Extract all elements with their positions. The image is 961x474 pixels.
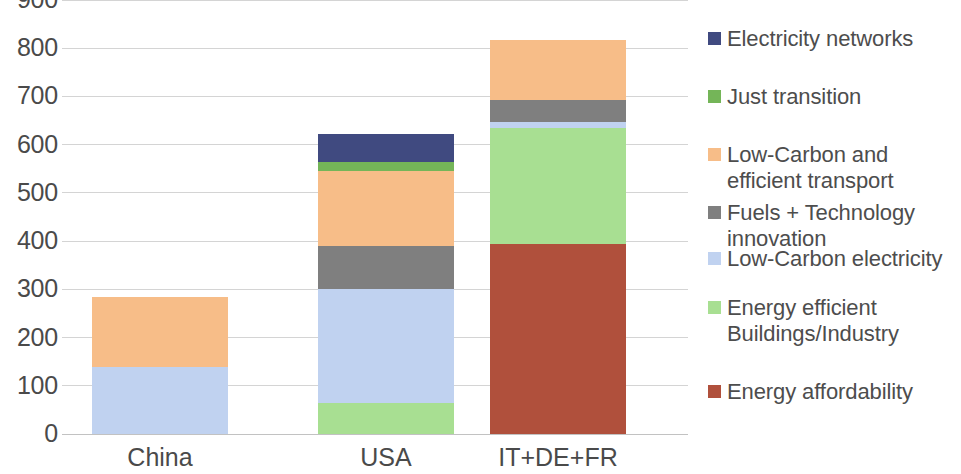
y-tick-label: 800 <box>0 35 58 60</box>
bar-segment[interactable] <box>490 128 626 244</box>
legend-swatch-icon <box>708 148 721 161</box>
y-tick-label: 100 <box>0 373 58 398</box>
plot-area <box>62 0 688 434</box>
bar-usa[interactable] <box>318 0 454 434</box>
x-tick-label: IT+DE+FR <box>490 444 626 472</box>
legend-label: Fuels + Technology innovation <box>727 200 915 251</box>
y-tick-label: 200 <box>0 325 58 350</box>
legend-label: Electricity networks <box>727 26 913 52</box>
x-tick-label: USA <box>318 444 454 472</box>
legend-item[interactable]: Electricity networks <box>708 26 913 52</box>
y-tick-label: 600 <box>0 132 58 157</box>
x-tick-label: China <box>92 444 228 472</box>
legend-item[interactable]: Just transition <box>708 84 861 110</box>
bar-segment[interactable] <box>318 403 454 434</box>
legend-swatch-icon <box>708 32 721 45</box>
legend-swatch-icon <box>708 252 721 265</box>
legend-item[interactable]: Low-Carbon and efficient transport <box>708 142 893 193</box>
legend-item[interactable]: Low-Carbon electricity <box>708 246 942 272</box>
bar-segment[interactable] <box>490 122 626 128</box>
bar-segment[interactable] <box>92 297 228 367</box>
bar-china[interactable] <box>92 0 228 434</box>
bar-segment[interactable] <box>92 367 228 435</box>
legend-item[interactable]: Energy efficient Buildings/Industry <box>708 295 899 346</box>
bar-segment[interactable] <box>490 40 626 100</box>
bar-segment[interactable] <box>318 171 454 246</box>
legend-label: Energy efficient Buildings/Industry <box>727 295 899 346</box>
legend-label: Energy affordability <box>727 379 913 405</box>
bar-segment[interactable] <box>490 244 626 434</box>
y-axis: 0100200300400500600700800900 <box>0 0 58 474</box>
legend-item[interactable]: Energy affordability <box>708 379 913 405</box>
legend-swatch-icon <box>708 385 721 398</box>
y-tick-label: 500 <box>0 180 58 205</box>
chart-legend: Electricity networksJust transitionLow-C… <box>708 0 961 474</box>
y-tick-label: 900 <box>0 0 58 12</box>
legend-label: Just transition <box>727 84 861 110</box>
bar-segment[interactable] <box>318 162 454 172</box>
legend-swatch-icon <box>708 206 721 219</box>
legend-item[interactable]: Fuels + Technology innovation <box>708 200 915 251</box>
stacked-bar-chart: 0100200300400500600700800900 ChinaUSAIT+… <box>0 0 961 474</box>
bar-segment[interactable] <box>318 289 454 402</box>
bar-segment[interactable] <box>490 100 626 121</box>
bar-segment[interactable] <box>318 246 454 289</box>
legend-label: Low-Carbon and efficient transport <box>727 142 893 193</box>
y-tick-label: 0 <box>0 421 58 446</box>
y-tick-label: 700 <box>0 83 58 108</box>
legend-label: Low-Carbon electricity <box>727 246 942 272</box>
bar-it-de-fr[interactable] <box>490 0 626 434</box>
y-tick-label: 300 <box>0 276 58 301</box>
bar-segment[interactable] <box>318 134 454 161</box>
y-tick-label: 400 <box>0 228 58 253</box>
legend-swatch-icon <box>708 90 721 103</box>
x-axis: ChinaUSAIT+DE+FR <box>62 438 688 474</box>
legend-swatch-icon <box>708 301 721 314</box>
